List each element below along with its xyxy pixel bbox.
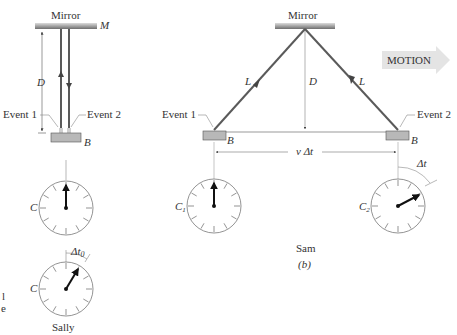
box-b (51, 133, 81, 142)
panel-caption: (b) (298, 258, 311, 271)
clock-pivot (212, 204, 216, 208)
mirror-label: Mirror (288, 9, 318, 21)
box-label: B (84, 136, 91, 148)
clock-c-start (39, 181, 93, 235)
event2-glow (67, 128, 71, 133)
clock-pivot (64, 206, 68, 210)
event2-leader (71, 115, 86, 127)
clock-c2 (371, 179, 425, 233)
mirror-symbol: M (99, 19, 110, 31)
panel-b: Mirror L L D MOTION Event 1 Event 2 B B … (162, 9, 451, 271)
mirror (35, 23, 97, 29)
box-b-start (203, 131, 226, 140)
clock-top-label: C (30, 201, 38, 213)
event1-leader (198, 115, 213, 127)
event1-label: Event 1 (3, 108, 37, 120)
panel-a: Mirror M D Event 1 Event 2 B (1, 9, 121, 333)
clock2-label: C2 (359, 200, 370, 214)
displacement-label: v Δt (296, 145, 314, 157)
event2-label: Event 2 (417, 108, 451, 120)
clock-bottom-label: C (30, 282, 38, 294)
mirror-label: Mirror (51, 9, 81, 21)
delta-t-label: Δt (416, 157, 427, 169)
path-label-right: L (358, 75, 365, 87)
delta-t-end-line (425, 180, 437, 186)
event1-label: Event 1 (162, 108, 196, 120)
path-label-left: L (244, 75, 251, 87)
caption-fragment: l (2, 290, 5, 302)
distance-label: D (36, 76, 45, 88)
distance-label: D (308, 75, 317, 87)
box-b-end (386, 131, 409, 140)
box-label-right: B (411, 134, 418, 146)
light-clock-diagram: Mirror M D Event 1 Event 2 B (0, 0, 457, 335)
event2-label: Event 2 (87, 108, 121, 120)
beam-down-arrow-icon (66, 83, 72, 89)
observer-label-sam: Sam (296, 242, 316, 254)
clock-pivot (396, 204, 400, 208)
delta-t0-label: Δt0 (70, 245, 85, 259)
event1-glow (59, 128, 63, 133)
clock-c1 (187, 179, 241, 233)
mirror (275, 23, 335, 29)
motion-label: MOTION (387, 54, 431, 66)
clock-c-end (39, 262, 93, 316)
event1-leader (40, 115, 58, 127)
event2-leader (400, 115, 415, 127)
clock-pivot (64, 287, 68, 291)
caption-fragment: e (1, 302, 6, 314)
observer-label-sally: Sally (52, 321, 75, 333)
beam-up-arrow-icon (58, 71, 64, 77)
box-label-left: B (227, 134, 234, 146)
clock1-label: C1 (175, 200, 186, 214)
